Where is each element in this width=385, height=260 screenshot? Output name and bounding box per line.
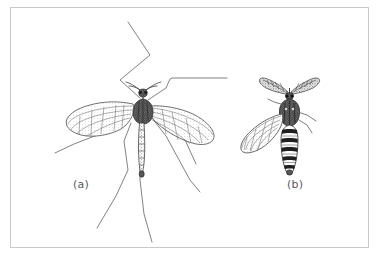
insect-illustration-canvas bbox=[0, 0, 385, 260]
mosquito-leg-3 bbox=[268, 99, 281, 104]
mosquito-eye-left bbox=[286, 95, 289, 98]
figure-root: (a) (b) bbox=[0, 0, 385, 260]
crane-fly-left-wing-membrane bbox=[66, 102, 135, 136]
mosquito-leg-2 bbox=[299, 120, 312, 133]
mosquito-leg-1 bbox=[298, 112, 316, 121]
crane-fly-eye-right bbox=[144, 91, 147, 94]
crane-fly-left-wing bbox=[66, 102, 135, 136]
crane-fly-illustration bbox=[55, 22, 227, 242]
mosquito-eye-right bbox=[291, 95, 294, 98]
crane-fly-terminalia bbox=[139, 171, 144, 177]
crane-fly-thorax bbox=[133, 99, 153, 124]
panel-label-b: (b) bbox=[287, 178, 303, 191]
crane-fly-leg-4 bbox=[97, 123, 131, 228]
crane-fly-head bbox=[126, 82, 161, 100]
crane-fly-leg-2 bbox=[148, 78, 227, 100]
mosquito-wing bbox=[241, 114, 283, 153]
mosquito-terminalia bbox=[287, 170, 293, 175]
mosquito-head bbox=[286, 88, 294, 99]
crane-fly-abdomen bbox=[138, 123, 144, 177]
crane-fly-eye-left bbox=[139, 91, 142, 94]
panel-label-a: (a) bbox=[73, 178, 89, 191]
mosquito-abdomen bbox=[281, 125, 298, 175]
mosquito-illustration bbox=[241, 78, 320, 175]
